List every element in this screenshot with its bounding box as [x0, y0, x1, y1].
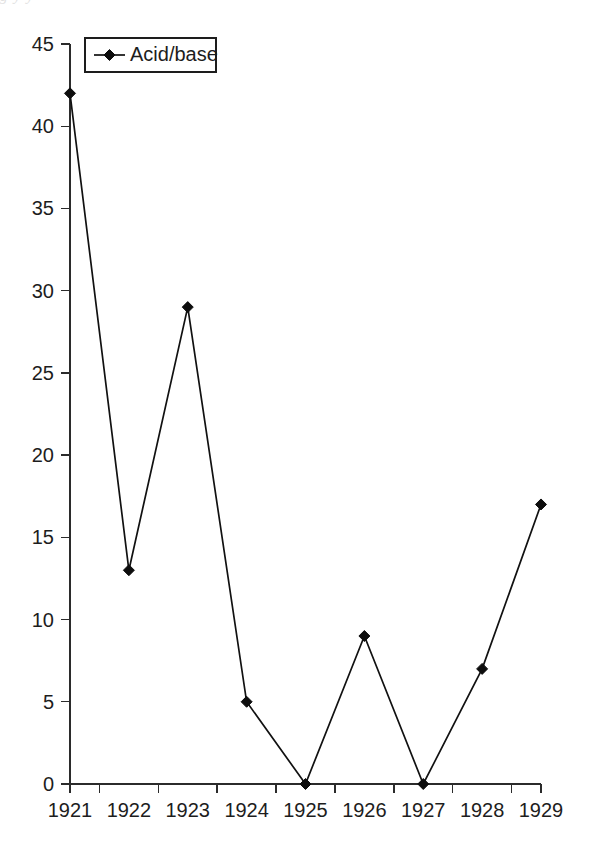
- data-point-marker[interactable]: [300, 779, 311, 790]
- x-axis-tick-label: 1926: [342, 799, 387, 821]
- series-acid-base[interactable]: [65, 88, 547, 790]
- x-axis-tick-label: 1923: [166, 799, 211, 821]
- y-axis-tick-label: 10: [32, 609, 54, 631]
- data-point-marker[interactable]: [359, 631, 370, 642]
- y-axis-tick-label: 5: [43, 691, 54, 713]
- x-axis-tick-label: 1921: [48, 799, 93, 821]
- data-point-marker[interactable]: [123, 565, 134, 576]
- x-axis-tick-label: 1929: [519, 799, 564, 821]
- line-chart: 454035302520151050 192119221923192419251…: [0, 0, 590, 843]
- x-axis-tick-label: 1925: [283, 799, 328, 821]
- legend-entry-label: Acid/base: [130, 43, 218, 65]
- x-axis-tick-label: 1922: [107, 799, 152, 821]
- chart-page: g y y 454035302520151050 192119221923192…: [0, 0, 590, 843]
- data-point-marker[interactable]: [418, 779, 429, 790]
- y-axis-tick-label: 45: [32, 33, 54, 55]
- data-point-marker[interactable]: [241, 696, 252, 707]
- y-axis: 454035302520151050: [32, 33, 70, 795]
- y-axis-tick-label: 15: [32, 526, 54, 548]
- series-line-acid-base: [70, 93, 541, 784]
- chart-svg: 454035302520151050 192119221923192419251…: [0, 0, 590, 843]
- y-axis-tick-label: 35: [32, 197, 54, 219]
- y-axis-tick-label: 30: [32, 280, 54, 302]
- x-axis-tick-label: 1927: [401, 799, 446, 821]
- data-point-marker[interactable]: [65, 88, 76, 99]
- y-axis-tick-label: 40: [32, 115, 54, 137]
- x-axis-tick-label: 1924: [224, 799, 269, 821]
- y-axis-tick-label: 0: [43, 773, 54, 795]
- y-axis-tick-label: 25: [32, 362, 54, 384]
- data-point-marker[interactable]: [536, 499, 547, 510]
- chart-legend[interactable]: Acid/base: [85, 38, 218, 72]
- x-axis-tick-label: 1928: [460, 799, 505, 821]
- y-axis-tick-label: 20: [32, 444, 54, 466]
- data-point-marker[interactable]: [477, 663, 488, 674]
- data-point-marker[interactable]: [182, 302, 193, 313]
